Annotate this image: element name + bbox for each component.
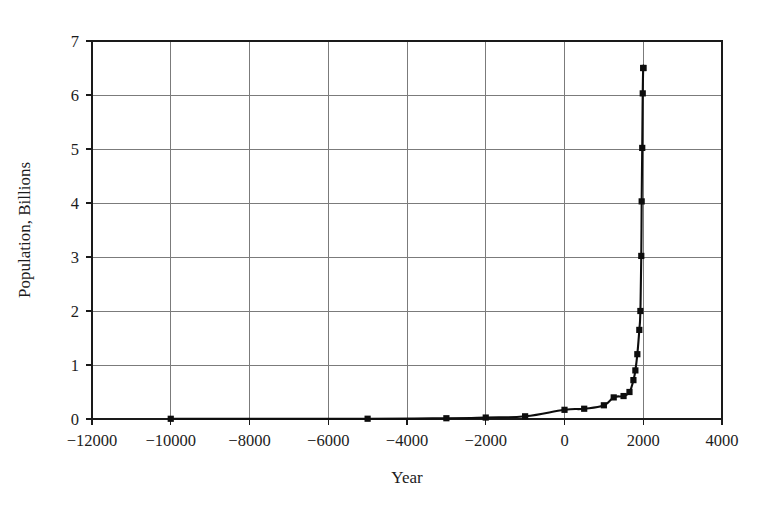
y-tick-label: 6 [71,86,79,105]
y-tick-label: 3 [71,248,79,267]
data-point-marker [522,413,528,419]
data-point-marker [632,367,638,373]
data-point-marker [611,394,617,400]
data-point-marker [443,415,449,421]
data-point-marker [640,90,646,96]
y-tick-label: 0 [71,410,79,429]
data-point-marker [626,389,632,395]
data-point-marker [636,327,642,333]
data-point-marker [561,407,567,413]
data-point-marker [168,416,174,422]
y-tick-label: 2 [71,302,79,321]
chart-canvas: −12000−10000−8000−6000−4000−200002000400… [0,0,784,513]
x-tick-label: −6000 [307,431,349,450]
x-tick-label: −8000 [228,431,270,450]
x-axis-title: Year [391,468,423,487]
x-tick-label: −10000 [145,431,196,450]
x-tick-label: −12000 [67,431,118,450]
x-tick-label: 2000 [627,431,660,450]
y-tick-label: 4 [71,194,79,213]
y-tick-label: 1 [71,356,79,375]
data-point-marker [638,253,644,259]
x-tick-labels: −12000−10000−8000−6000−4000−200002000400… [67,431,739,450]
y-axis-title: Population, Billions [15,162,34,298]
data-point-marker [640,65,646,71]
data-point-marker [365,416,371,422]
x-tick-label: 4000 [706,431,739,450]
data-point-marker [483,414,489,420]
data-point-marker [639,145,645,151]
y-tick-label: 7 [71,32,79,51]
data-point-marker [637,308,643,314]
population-growth-chart: −12000−10000−8000−6000−4000−200002000400… [0,0,784,513]
y-tick-label: 5 [71,140,79,159]
x-tick-label: 0 [560,431,568,450]
data-point-marker [634,351,640,357]
data-point-marker [620,393,626,399]
x-tick-label: −2000 [465,431,507,450]
data-point-marker [581,406,587,412]
x-tick-label: −4000 [386,431,428,450]
data-point-marker [601,402,607,408]
data-point-marker [639,198,645,204]
data-point-marker [630,377,636,383]
